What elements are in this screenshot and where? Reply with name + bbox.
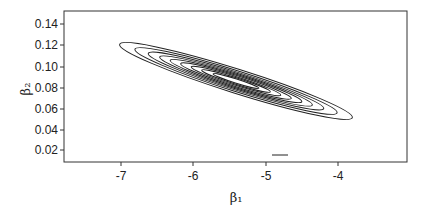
x-tick-label: -6 — [188, 169, 199, 183]
contour-lines — [116, 33, 356, 129]
x-tick-label: -5 — [261, 169, 272, 183]
y-tick-label: 0.10 — [35, 60, 59, 74]
y-axis-label: β₂ — [18, 83, 33, 96]
x-tick-label: -4 — [333, 169, 344, 183]
y-tick-label: 0.12 — [35, 38, 59, 52]
y-tick-label: 0.14 — [35, 17, 59, 31]
y-tick-label: 0.04 — [35, 123, 59, 137]
y-tick-label: 0.06 — [35, 102, 59, 116]
y-tick-label: 0.02 — [35, 143, 59, 157]
x-tick-label: -7 — [116, 169, 127, 183]
contour-chart: 0.14 0.12 0.10 0.08 0.06 0.04 0.02 -7 -6… — [0, 0, 430, 211]
y-tick-label: 0.08 — [35, 81, 59, 95]
x-axis-label: β₁ — [230, 190, 243, 205]
x-axis — [121, 162, 338, 166]
y-axis — [60, 24, 64, 150]
